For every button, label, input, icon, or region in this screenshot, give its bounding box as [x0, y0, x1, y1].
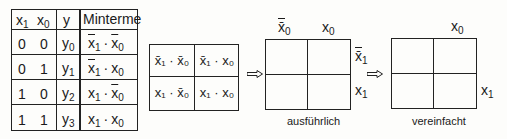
- cell-x0: 1: [40, 62, 48, 76]
- cell-x1: 1: [18, 87, 26, 101]
- cell-x0: 1: [40, 113, 48, 127]
- caption-ausfuehrlich: ausführlich: [287, 115, 340, 127]
- table-row-divider: [12, 54, 137, 55]
- truth-table: x1 x0 y Minterme 0 0 y0 x1·x0 0 1 y1 x1·…: [11, 9, 138, 131]
- kmap-cell: x̄₁ · x₀: [195, 53, 239, 68]
- cell-y: y1: [62, 61, 75, 78]
- cell-x0: 0: [40, 87, 48, 101]
- kmap-cell: x̄₁ · x̄₀: [150, 53, 194, 68]
- kmap-simplified: [391, 38, 477, 109]
- kmap-cell: x₁ · x₀: [195, 85, 239, 100]
- table-header-divider: [12, 29, 137, 30]
- cell-minterm: x1·x0: [88, 61, 124, 78]
- col-label-x0: x0: [451, 18, 464, 36]
- col-label-not-x0: x̄0: [278, 19, 291, 37]
- table-divider: [79, 10, 81, 130]
- cell-minterm: x1·x0: [88, 36, 124, 53]
- kmap-cell: x₁ · x̄₀: [150, 85, 194, 100]
- grid-divider: [266, 74, 350, 75]
- header-x0: x0: [37, 13, 50, 30]
- col-label-x0: x0: [322, 19, 335, 37]
- cell-x0: 0: [40, 37, 48, 51]
- implies-arrow-icon: [247, 70, 263, 78]
- kmap-detailed: [265, 39, 351, 110]
- row-label-x1: x1: [355, 82, 368, 100]
- cell-x1: 1: [18, 113, 26, 127]
- row-label-x1: x1: [481, 82, 494, 100]
- cell-y: y2: [62, 86, 75, 103]
- cell-y: y0: [62, 36, 75, 53]
- cell-y: y3: [62, 112, 75, 129]
- header-minterme: Minterme: [83, 12, 141, 26]
- cell-minterm: x1·x0: [88, 86, 124, 103]
- grid-divider: [150, 76, 238, 77]
- implies-arrow-icon: [367, 70, 383, 78]
- cell-x1: 0: [18, 62, 26, 76]
- row-label-not-x1: x̄1: [355, 48, 368, 66]
- table-divider: [56, 10, 57, 130]
- cell-minterm: x1·x0: [88, 112, 124, 129]
- header-y: y: [63, 13, 70, 27]
- kmap-terms: x̄₁ · x̄₀ x̄₁ · x₀ x₁ · x̄₀ x₁ · x₀: [149, 44, 239, 111]
- grid-divider: [392, 73, 476, 74]
- table-row-divider: [12, 79, 137, 80]
- header-x1: x1: [16, 13, 29, 30]
- caption-vereinfacht: vereinfacht: [412, 115, 466, 127]
- cell-x1: 0: [18, 37, 26, 51]
- table-row-divider: [12, 104, 137, 105]
